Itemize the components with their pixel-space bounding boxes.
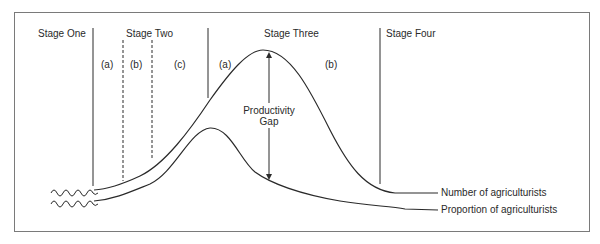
productivity-gap-label-line1: Productivity — [243, 105, 295, 116]
proportion-of-agriculturists-curve — [94, 128, 438, 210]
productivity-gap-label-line2: Gap — [260, 116, 279, 127]
stage-three-b-label: (b) — [325, 59, 337, 70]
stage-two-label: Stage Two — [126, 28, 174, 39]
stage-two-c-label: (c) — [174, 59, 186, 70]
proportion-curve-wave — [51, 201, 98, 207]
stage-two-a-label: (a) — [101, 59, 113, 70]
diagram-frame — [15, 13, 590, 232]
stage-four-label: Stage Four — [386, 28, 436, 39]
stage-three-label: Stage Three — [264, 28, 319, 39]
number-curve-wave — [51, 190, 98, 196]
proportion-of-agriculturists-label: Proportion of agriculturists — [441, 204, 557, 215]
stage-three-a-label: (a) — [219, 59, 231, 70]
stage-two-b-label: (b) — [130, 59, 142, 70]
number-of-agriculturists-label: Number of agriculturists — [441, 187, 547, 198]
stage-one-label: Stage One — [38, 28, 86, 39]
agricultural-transition-diagram: Stage One Stage Two Stage Three Stage Fo… — [0, 0, 600, 244]
